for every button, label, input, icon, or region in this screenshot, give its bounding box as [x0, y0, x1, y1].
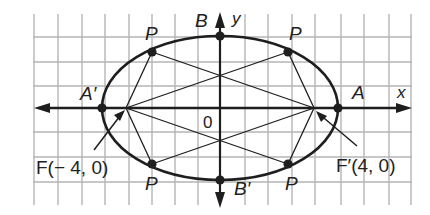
focus-pointer-arrows	[94, 110, 357, 150]
point-dot	[333, 103, 342, 112]
label-focus-F: F(− 4, 0)	[36, 157, 108, 178]
point-dot	[97, 103, 106, 112]
label-focus-F-prime: F′(4, 0)	[336, 155, 396, 176]
arrowhead-F-prime-icon	[316, 111, 327, 122]
arrowhead-F-icon	[114, 110, 125, 121]
arrow-left-icon	[34, 103, 50, 113]
arrow-right-icon	[396, 103, 412, 113]
label-B-prime: B′	[234, 178, 252, 199]
label-P-top-right: P	[289, 23, 302, 44]
label-origin: 0	[203, 113, 212, 132]
label-x-axis: x	[396, 83, 406, 102]
label-B: B	[195, 10, 208, 31]
label-P-top-left: P	[145, 23, 158, 44]
label-P-bottom-right: P	[285, 173, 298, 194]
segment-P-to-F-prime	[152, 52, 314, 108]
label-A-prime: A′	[79, 83, 98, 104]
point-dot	[215, 175, 224, 184]
point-dot	[283, 159, 292, 168]
point-dot	[147, 47, 156, 56]
point-dot	[147, 159, 156, 168]
arrow-up-icon	[215, 12, 225, 28]
point-dot	[215, 31, 224, 40]
segment-P-to-F	[126, 52, 288, 108]
point-dot	[283, 47, 292, 56]
ellipse-diagram: B y P P A′ A x 0 F(− 4, 0) F′(4, 0) P P …	[0, 0, 430, 215]
label-A: A	[351, 82, 365, 103]
segment-P-to-F-prime	[152, 108, 314, 164]
label-P-bottom-left: P	[145, 173, 158, 194]
arrow-down-icon	[215, 192, 225, 208]
label-y-axis: y	[231, 9, 242, 28]
